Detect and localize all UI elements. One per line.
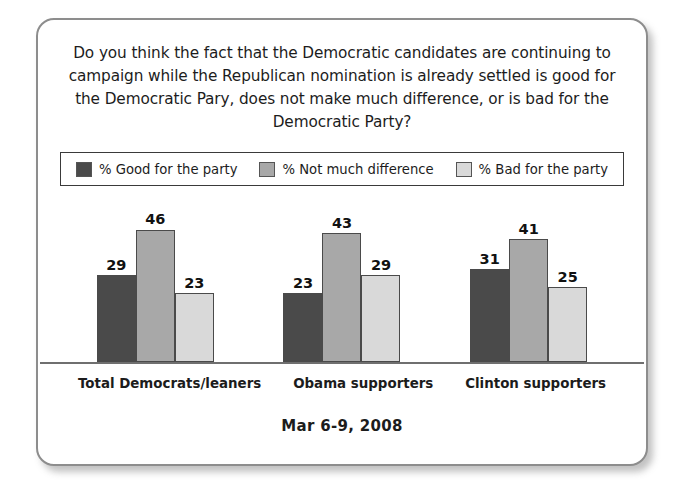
category-label: Total Democrats/leaners (78, 376, 261, 391)
bar-group: 314125 (470, 212, 587, 362)
bar-groups: 294623234329314125 (62, 212, 622, 362)
bar-value-label: 43 (332, 216, 352, 231)
bar-rect (548, 287, 587, 362)
x-axis-line (40, 362, 644, 364)
bar-group: 294623 (97, 212, 214, 362)
bar-value-label: 29 (371, 258, 391, 273)
bar-rect (322, 233, 361, 362)
legend-swatch-good (76, 162, 92, 177)
legend-label-bad: % Bad for the party (479, 162, 608, 177)
bar-rect (283, 293, 322, 362)
category-label: Clinton supporters (465, 376, 606, 391)
bar-value-label: 29 (106, 258, 126, 273)
bar-value-label: 31 (480, 252, 500, 267)
bar-value-label: 46 (145, 212, 165, 227)
bar-rect (509, 239, 548, 362)
category-labels: Total Democrats/leanersObama supportersC… (62, 376, 622, 391)
bar-column: 25 (548, 212, 587, 362)
bar-rect (136, 230, 175, 363)
chart-card: Do you think the fact that the Democrati… (36, 18, 648, 466)
legend-label-notmuch: % Not much difference (282, 162, 433, 177)
category-label: Obama supporters (293, 376, 433, 391)
bar-value-label: 23 (184, 276, 204, 291)
legend-entry-bad: % Bad for the party (456, 162, 608, 177)
legend-label-good: % Good for the party (99, 162, 238, 177)
bar-column: 29 (97, 212, 136, 362)
legend-swatch-notmuch (259, 162, 275, 177)
legend-entry-notmuch: % Not much difference (259, 162, 433, 177)
bar-column: 43 (322, 212, 361, 362)
chart-legend: % Good for the party % Not much differen… (60, 152, 624, 186)
bar-value-label: 25 (558, 270, 578, 285)
bar-column: 41 (509, 212, 548, 362)
bar-group: 234329 (283, 212, 400, 362)
bar-value-label: 41 (519, 222, 539, 237)
legend-swatch-bad (456, 162, 472, 177)
question-title: Do you think the fact that the Democrati… (58, 42, 626, 134)
bar-rect (470, 269, 509, 362)
bar-column: 29 (361, 212, 400, 362)
bar-column: 23 (175, 212, 214, 362)
bar-value-label: 23 (293, 276, 313, 291)
bar-column: 46 (136, 212, 175, 362)
legend-entry-good: % Good for the party (76, 162, 238, 177)
bar-rect (361, 275, 400, 362)
plot-area: 294623234329314125 (62, 212, 622, 362)
footer-date: Mar 6-9, 2008 (38, 417, 646, 435)
bar-column: 23 (283, 212, 322, 362)
bar-rect (175, 293, 214, 362)
bar-column: 31 (470, 212, 509, 362)
bar-rect (97, 275, 136, 362)
